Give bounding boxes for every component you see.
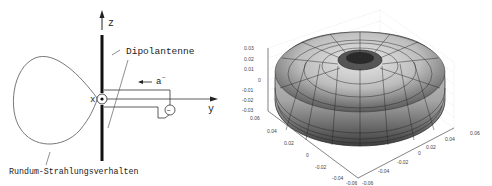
antenna-lower-element	[101, 105, 104, 161]
torus-surface	[275, 32, 445, 146]
y-axis-label: y	[208, 104, 214, 115]
svg-text:0.03: 0.03	[244, 45, 254, 51]
antenna-label: Dipolantenne	[126, 46, 195, 57]
z-axis-ticks: 0.03 0.02 0.01 0 -0.01 -0.02 -0.03	[242, 45, 261, 113]
current-superscript: −	[162, 74, 166, 81]
svg-text:-0.06: -0.06	[346, 180, 358, 186]
svg-text:0: 0	[306, 152, 309, 158]
svg-text:0.06: 0.06	[470, 130, 480, 136]
svg-text:-0.06: -0.06	[362, 180, 374, 186]
svg-text:-0.02: -0.02	[315, 164, 327, 170]
svg-text:0.04: 0.04	[267, 128, 277, 134]
svg-text:0: 0	[418, 150, 421, 156]
x-axis-label: x	[90, 95, 95, 105]
svg-text:0: 0	[258, 77, 261, 83]
svg-text:-0.04: -0.04	[332, 175, 344, 181]
radiation-pattern-3d-plot: 0.03 0.02 0.01 0 -0.01 -0.02 -0.03 0.06 …	[240, 0, 492, 186]
svg-text:-0.03: -0.03	[242, 107, 254, 113]
svg-text:0.02: 0.02	[284, 140, 294, 146]
pattern-label: Rundum-Strahlungsverhalten	[9, 167, 138, 176]
svg-text:0.04: 0.04	[445, 136, 455, 142]
source-symbol: ~	[167, 107, 171, 115]
dipole-antenna-diagram: z y x Dipolantenne a − ~ Rundum-Strahlun…	[0, 0, 240, 186]
z-axis-label: z	[108, 18, 114, 29]
svg-text:0.01: 0.01	[244, 66, 254, 72]
svg-text:-0.04: -0.04	[378, 168, 390, 174]
radiation-pattern-lobe	[13, 56, 97, 144]
antenna-upper-element	[101, 35, 104, 93]
svg-text:-0.02: -0.02	[242, 97, 254, 103]
svg-text:-0.01: -0.01	[242, 87, 254, 93]
svg-text:0.02: 0.02	[426, 144, 436, 150]
svg-text:-0.02: -0.02	[397, 159, 409, 165]
svg-text:0.06: 0.06	[250, 115, 260, 121]
svg-text:0.02: 0.02	[244, 56, 254, 62]
